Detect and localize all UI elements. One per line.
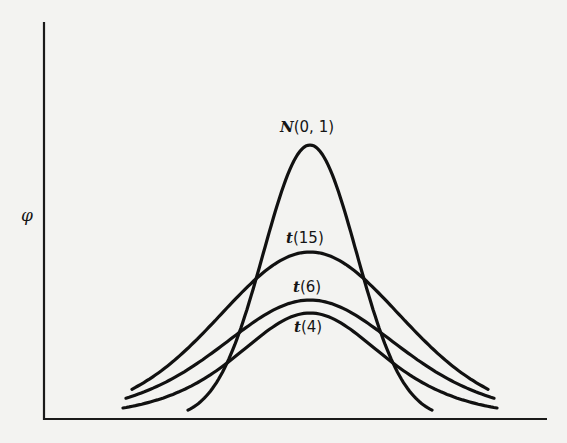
label-italic: t — [293, 278, 300, 296]
y-axis-label: φ — [21, 205, 33, 225]
label-italic: t — [294, 318, 301, 336]
label-t-4: t(4) — [294, 318, 322, 336]
label-t-6: t(6) — [293, 278, 321, 296]
label-normal-0-1: N(0, 1) — [280, 118, 334, 136]
label-t-15: t(15) — [286, 229, 324, 247]
curve-t-6 — [126, 300, 494, 398]
label-italic: N — [280, 118, 294, 136]
label-text: (4) — [301, 318, 322, 336]
label-text: (6) — [300, 278, 321, 296]
chart-canvas — [0, 0, 567, 443]
label-text: (15) — [293, 229, 324, 247]
label-italic: t — [286, 229, 293, 247]
label-text: (0, 1) — [294, 118, 334, 136]
